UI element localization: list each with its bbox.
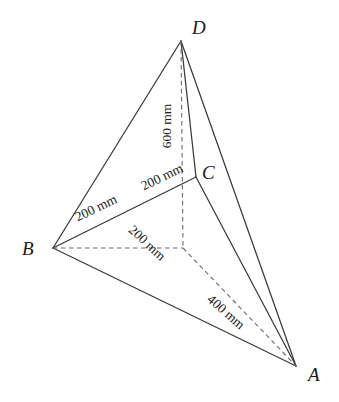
dimension-label-600mm: 600 mm bbox=[160, 104, 174, 149]
vertex-label-B: B bbox=[22, 239, 34, 258]
edge-C-A bbox=[196, 177, 296, 366]
tetrahedron-diagram: D C B A 600 mm 200 mm 200 mm 200 mm 400 … bbox=[0, 0, 339, 402]
dashed-O-A bbox=[183, 248, 296, 366]
diagram-canvas bbox=[0, 0, 339, 402]
vertex-label-C: C bbox=[202, 163, 215, 182]
dashed-D-O bbox=[181, 41, 183, 248]
vertex-label-D: D bbox=[192, 18, 206, 37]
edge-B-A bbox=[53, 248, 296, 366]
vertex-label-A: A bbox=[308, 365, 320, 384]
